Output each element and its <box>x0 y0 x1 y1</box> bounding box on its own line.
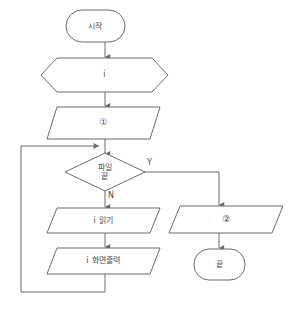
branch-label-no: N <box>108 191 114 200</box>
node-start <box>66 10 125 42</box>
node-declare <box>41 58 168 92</box>
node-step1 <box>47 107 160 139</box>
node-step2 <box>169 206 283 233</box>
flowchart-canvas <box>0 0 297 310</box>
node-display <box>47 248 160 274</box>
node-end <box>194 249 245 280</box>
connector-decision-yes-to-step2 <box>144 172 219 205</box>
node-decision <box>65 153 145 191</box>
flowchart-diagram: 시작 i ① 파일 끝 i 읽기 i 화면출력 ② 끝 Y N <box>0 0 297 310</box>
node-read <box>47 208 160 233</box>
branch-label-yes: Y <box>147 158 152 167</box>
